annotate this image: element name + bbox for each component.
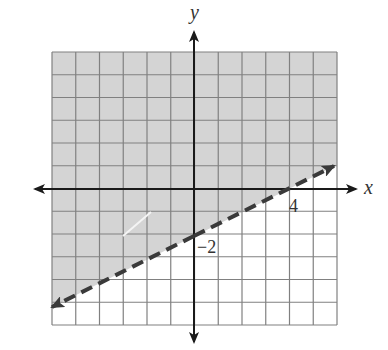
y-axis-label: y [188, 1, 199, 24]
y-intercept-label: −2 [197, 237, 216, 257]
x-intercept-label: 4 [289, 196, 298, 216]
inequality-graph: y x 4 −2 [0, 0, 388, 350]
x-axis-label: x [363, 176, 373, 198]
